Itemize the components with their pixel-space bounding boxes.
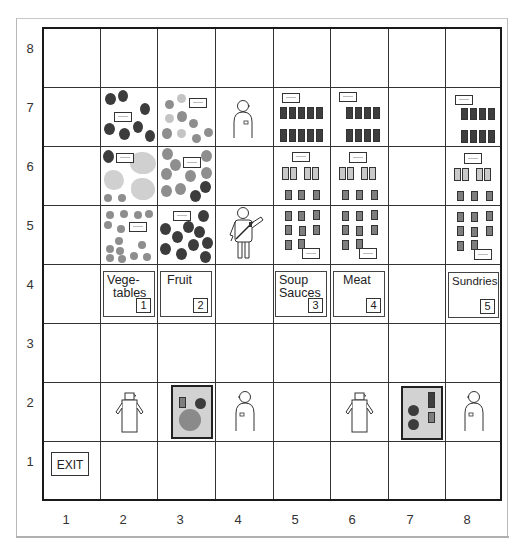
col-label-2: 2 xyxy=(113,512,133,527)
price-tag xyxy=(455,95,473,105)
col-label-3: 3 xyxy=(170,512,190,527)
shopper-pointing-icon xyxy=(226,205,264,261)
dept-number: 2 xyxy=(193,298,208,313)
col-label-7: 7 xyxy=(400,512,420,527)
cart-produce xyxy=(171,385,213,439)
price-tag xyxy=(129,222,147,232)
col-label-1: 1 xyxy=(56,512,76,527)
dept-number: 3 xyxy=(308,298,323,313)
shopper-back-icon xyxy=(114,390,146,434)
price-tag xyxy=(116,153,134,163)
dept-name: Meat xyxy=(337,274,384,287)
dept-number: 5 xyxy=(480,299,495,314)
row-label-8: 8 xyxy=(20,41,40,56)
price-tag xyxy=(282,93,300,103)
price-tag xyxy=(114,112,132,122)
dept-sign-vegetables: Vege- tables 1 xyxy=(103,271,155,317)
col-label-6: 6 xyxy=(342,512,362,527)
col-label-8: 8 xyxy=(457,512,477,527)
dept-sign-fruit: Fruit 2 xyxy=(160,271,212,317)
row-label-6: 6 xyxy=(20,159,40,174)
clerk-icon xyxy=(228,98,258,140)
clerk-icon xyxy=(230,389,260,433)
cart-mixed xyxy=(401,386,443,440)
dept-name: Sundries xyxy=(452,275,498,288)
price-tag xyxy=(464,153,482,164)
price-tag xyxy=(349,152,367,163)
price-tag xyxy=(474,249,492,260)
price-tag xyxy=(292,152,310,162)
dept-name: Fruit xyxy=(164,274,211,287)
row-label-5: 5 xyxy=(20,218,40,233)
price-tag xyxy=(189,98,207,108)
col-label-4: 4 xyxy=(228,512,248,527)
row-label-2: 2 xyxy=(20,395,40,410)
row-label-1: 1 xyxy=(20,454,40,469)
row-label-7: 7 xyxy=(20,100,40,115)
dept-sign-sundries: Sundries 5 xyxy=(448,272,499,318)
dept-sign-meat: Meat 4 xyxy=(333,271,385,317)
dept-number: 4 xyxy=(366,298,381,313)
caption-rule xyxy=(16,536,509,538)
row-label-3: 3 xyxy=(20,336,40,351)
exit-sign: EXIT xyxy=(51,452,89,476)
shopper-back-icon xyxy=(344,390,376,434)
price-tag xyxy=(183,157,201,168)
row-label-4: 4 xyxy=(20,277,40,292)
price-tag xyxy=(339,92,357,102)
price-tag xyxy=(359,248,377,259)
dept-number: 1 xyxy=(136,298,151,313)
col-label-5: 5 xyxy=(285,512,305,527)
clerk-icon xyxy=(459,389,489,433)
price-tag xyxy=(173,211,191,221)
price-tag xyxy=(302,248,320,259)
dept-sign-soup-sauces: Soup Sauces 3 xyxy=(275,271,327,317)
